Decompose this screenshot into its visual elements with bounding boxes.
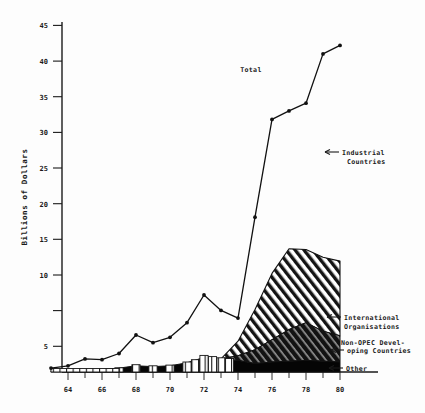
y-tick-label: 20 bbox=[40, 201, 48, 209]
x-tick-label: 74 bbox=[234, 386, 242, 394]
y-tick-label: 15 bbox=[40, 236, 48, 244]
y-axis-title: Billions of Dollars bbox=[20, 148, 29, 245]
y-tick-label: 45 bbox=[40, 22, 48, 30]
total-data-point bbox=[253, 215, 257, 219]
x-axis: 64 66 68 70 72 74 76 78 80 bbox=[62, 372, 378, 394]
x-tick-label: 72 bbox=[200, 386, 208, 394]
total-data-point bbox=[304, 101, 308, 105]
annotation-non-opec-developing-countries: Non-OPEC Devel- oping Countries bbox=[331, 339, 411, 356]
early-period-bar bbox=[225, 359, 233, 373]
annotation-nonopec-line1: Non-OPEC Devel- bbox=[341, 339, 405, 347]
total-data-point bbox=[66, 364, 70, 368]
y-tick-label: 5 bbox=[44, 343, 48, 351]
y-tick-label: 10 bbox=[40, 272, 48, 280]
annotation-industrial-countries: Industrial Countries bbox=[325, 149, 385, 167]
total-data-point bbox=[49, 366, 53, 370]
y-axis-ticks bbox=[53, 25, 62, 346]
x-tick-label: 66 bbox=[98, 386, 106, 394]
total-data-point bbox=[117, 352, 121, 356]
chart-figure: 45 40 35 30 25 20 15 10 5 Billions of Do… bbox=[0, 0, 425, 413]
total-data-point bbox=[134, 333, 138, 337]
annotation-total-label: Total bbox=[240, 66, 261, 74]
annotation-intl-line1: International bbox=[344, 314, 400, 322]
early-period-bar bbox=[200, 355, 208, 372]
early-period-bar bbox=[217, 358, 225, 372]
y-axis-tick-labels: 45 40 35 30 25 20 15 10 5 bbox=[40, 22, 48, 351]
early-period-bar bbox=[51, 369, 119, 373]
x-tick-label: 68 bbox=[132, 386, 140, 394]
early-period-bar bbox=[183, 362, 191, 372]
early-period-bar bbox=[149, 366, 157, 372]
total-data-point bbox=[219, 309, 223, 313]
total-data-point bbox=[83, 357, 87, 361]
annotation-other-label: Other bbox=[346, 365, 367, 373]
total-data-point bbox=[287, 109, 291, 113]
annotation-total: Total bbox=[240, 66, 261, 74]
total-data-point bbox=[151, 341, 155, 345]
total-data-point bbox=[338, 44, 342, 48]
stacked-areas bbox=[51, 249, 340, 372]
x-tick-label: 76 bbox=[268, 386, 276, 394]
early-period-bar bbox=[208, 357, 216, 372]
y-tick-label: 30 bbox=[40, 129, 48, 137]
total-data-point bbox=[321, 52, 325, 56]
chart-canvas: 45 40 35 30 25 20 15 10 5 Billions of Do… bbox=[0, 0, 425, 413]
x-tick-label: 64 bbox=[64, 386, 72, 394]
x-axis-tick-labels: 64 66 68 70 72 74 76 78 80 bbox=[64, 386, 344, 394]
x-tick-label: 80 bbox=[336, 386, 344, 394]
total-data-point bbox=[236, 316, 240, 320]
y-axis: 45 40 35 30 25 20 15 10 5 Billions of Do… bbox=[20, 22, 62, 372]
total-data-point bbox=[185, 321, 189, 325]
early-period-bar bbox=[166, 365, 174, 372]
annotation-industrial-line1: Industrial bbox=[342, 149, 385, 157]
early-period-bar bbox=[191, 360, 199, 372]
annotation-intl-line2: Organisations bbox=[344, 323, 400, 331]
early-period-bar bbox=[132, 365, 140, 372]
x-axis-minor-ticks bbox=[68, 372, 340, 380]
y-tick-label: 40 bbox=[40, 58, 48, 66]
y-tick-label: 35 bbox=[40, 94, 48, 102]
annotation-nonopec-line2: oping Countries bbox=[347, 347, 411, 355]
total-data-point bbox=[168, 335, 172, 339]
total-data-point bbox=[202, 293, 206, 297]
x-tick-label: 70 bbox=[166, 386, 174, 394]
total-data-point bbox=[100, 358, 104, 362]
y-tick-label: 25 bbox=[40, 165, 48, 173]
x-tick-label: 78 bbox=[302, 386, 310, 394]
total-data-point bbox=[270, 118, 274, 122]
annotation-industrial-line2: Countries bbox=[347, 158, 385, 166]
